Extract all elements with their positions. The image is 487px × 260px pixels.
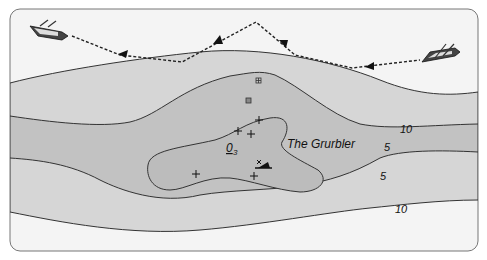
contour-label-10-top: 10 bbox=[400, 123, 413, 135]
svg-text:0: 0 bbox=[226, 141, 233, 155]
place-name-label: The Grurbler bbox=[287, 137, 356, 151]
contour-label-5-bottom: 5 bbox=[380, 170, 387, 182]
svg-text:3: 3 bbox=[233, 148, 238, 157]
nautical-chart: 10 5 5 10 The Grurbler 0 3 bbox=[0, 0, 487, 260]
rock-marker-2-icon bbox=[246, 98, 251, 103]
contour-label-10-bottom: 10 bbox=[395, 203, 408, 215]
contour-label-5-top: 5 bbox=[384, 141, 391, 153]
